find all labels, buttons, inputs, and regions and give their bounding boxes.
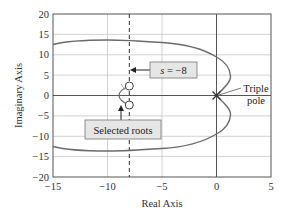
svg-text:20: 20 (39, 9, 50, 20)
svg-text:−5: −5 (156, 181, 167, 192)
svg-text:15: 15 (39, 29, 50, 40)
selected-root-upper (125, 82, 133, 90)
svg-text:5: 5 (44, 70, 49, 81)
root-locus-upper-branch (53, 40, 231, 96)
svg-text:10: 10 (39, 49, 50, 60)
annotation-selected-roots: Selected roots (85, 105, 161, 139)
selected-root-lower (125, 101, 133, 109)
svg-text:−10: −10 (99, 181, 115, 192)
annotation-triple-pole: Triple pole (219, 83, 269, 106)
svg-text:pole: pole (247, 95, 265, 106)
svg-text:−10: −10 (33, 131, 49, 142)
svg-text:0: 0 (214, 181, 219, 192)
svg-text:−5: −5 (38, 110, 49, 121)
root-locus-chart: s = −8 Selected roots Triple pole 20 15 … (0, 0, 287, 218)
arrow-left-icon (130, 67, 136, 73)
y-axis-label: Imaginary Axis (13, 63, 24, 128)
svg-text:Selected roots: Selected roots (93, 125, 152, 136)
x-tick-labels: −15 −10 −5 0 5 (45, 181, 274, 192)
svg-text:−15: −15 (45, 181, 61, 192)
y-tick-labels: 20 15 10 5 0 −5 −10 −15 −20 (33, 9, 49, 183)
x-axis-label: Real Axis (141, 198, 182, 209)
svg-text:s = −8: s = −8 (160, 65, 186, 76)
svg-text:−15: −15 (33, 151, 49, 162)
svg-text:0: 0 (44, 90, 49, 101)
annotation-s-minus-8: s = −8 (130, 62, 197, 78)
svg-text:Triple: Triple (243, 83, 269, 94)
arrow-up-icon (118, 105, 124, 111)
svg-text:5: 5 (268, 181, 273, 192)
